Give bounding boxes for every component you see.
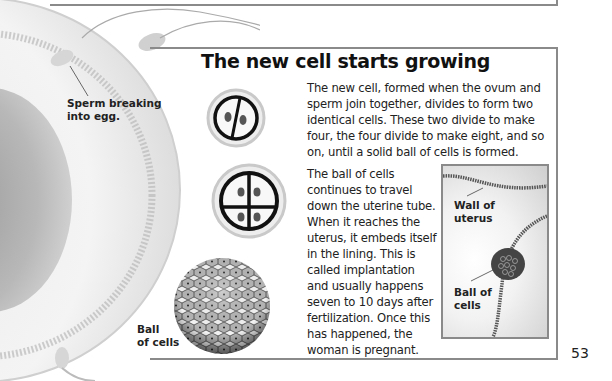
two-cell-icon — [205, 87, 267, 149]
inset-ball-label-line2: cells — [454, 299, 492, 312]
four-cell-icon — [210, 162, 288, 240]
inset-ball-label-line1: Ball of — [454, 286, 492, 299]
ball-label-line2: of cells — [137, 336, 179, 349]
wall-label-line2: uterus — [454, 212, 495, 225]
page-title: The new cell starts growing — [201, 50, 490, 72]
top-frame-border — [50, 0, 558, 6]
sperm-label-line1: Sperm breaking — [67, 97, 161, 110]
wall-label-line1: Wall of — [454, 199, 495, 212]
uterus-inset: Wall of uterus Ball of cells — [441, 164, 549, 339]
page-number: 53 — [571, 345, 589, 361]
inset-ball-of-cells-label: Ball of cells — [454, 286, 492, 312]
sperm-label: Sperm breaking into egg. — [67, 97, 161, 123]
paragraph-implantation: The ball of cells continues to travel do… — [307, 166, 439, 358]
sperm-label-line2: into egg. — [67, 110, 161, 123]
ball-of-cells-icon — [170, 256, 274, 356]
paragraph-cell-division: The new cell, formed when the ovum and s… — [307, 80, 552, 160]
wall-of-uterus-label: Wall of uterus — [454, 199, 495, 225]
ball-of-cells-label: Ball of cells — [137, 323, 179, 349]
ball-label-line1: Ball — [137, 323, 179, 336]
